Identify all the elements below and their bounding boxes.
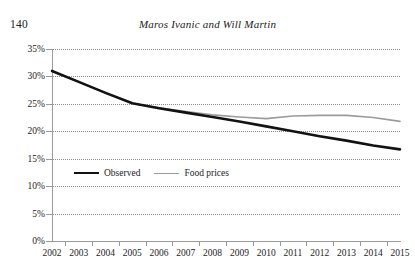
x-tick-mark <box>226 241 227 246</box>
running-head: 140 Maros Ivanic and Will Martin <box>0 18 415 36</box>
y-axis-labels: 0%5%10%15%20%25%30%35% <box>0 49 50 241</box>
x-tick-mark <box>119 241 120 246</box>
x-tick-mark <box>92 241 93 246</box>
x-tick-label: 2006 <box>150 248 169 258</box>
running-head-title: Maros Ivanic and Will Martin <box>0 18 415 30</box>
y-tick-label: 0% <box>32 236 45 246</box>
x-tick-mark <box>253 241 254 246</box>
x-tick-mark <box>65 241 66 246</box>
series-line-observed <box>52 71 400 149</box>
x-tick-label: 2013 <box>337 248 356 258</box>
x-tick-mark <box>333 241 334 246</box>
legend-label-observed: Observed <box>104 168 140 178</box>
line-chart: 0%5%10%15%20%25%30%35% 20022003200420052… <box>0 40 415 278</box>
legend-line-observed-icon <box>74 172 99 174</box>
x-tick-label: 2009 <box>230 248 249 258</box>
x-tick-label: 2011 <box>284 248 303 258</box>
x-tick-label: 2004 <box>96 248 115 258</box>
figure-page: 140 Maros Ivanic and Will Martin 0%5%10%… <box>0 0 415 278</box>
legend-line-food-prices-icon <box>154 173 179 174</box>
series-layer <box>52 49 400 241</box>
x-tick-label: 2014 <box>364 248 383 258</box>
x-tick-label: 2002 <box>43 248 62 258</box>
series-line-food-prices <box>52 71 400 121</box>
x-tick-mark <box>199 241 200 246</box>
legend-item-food-prices: Food prices <box>154 168 229 178</box>
x-tick-label: 2003 <box>69 248 88 258</box>
x-tick-label: 2007 <box>176 248 195 258</box>
x-tick-label: 2012 <box>310 248 329 258</box>
chart-legend: Observed Food prices <box>74 168 229 178</box>
y-tick-label: 20% <box>28 126 45 136</box>
x-tick-label: 2005 <box>123 248 142 258</box>
x-tick-mark <box>146 241 147 246</box>
x-axis-labels: 2002200320042005200620072008200920102011… <box>0 248 415 268</box>
x-tick-label: 2015 <box>391 248 410 258</box>
legend-item-observed: Observed <box>74 168 140 178</box>
x-tick-mark <box>360 241 361 246</box>
x-tick-mark <box>306 241 307 246</box>
y-tick-label: 35% <box>28 44 45 54</box>
x-tick-label: 2008 <box>203 248 222 258</box>
y-tick-label: 10% <box>28 181 45 191</box>
y-tick-label: 25% <box>28 99 45 109</box>
legend-label-food-prices: Food prices <box>184 168 229 178</box>
y-tick-label: 30% <box>28 71 45 81</box>
x-tick-mark <box>172 241 173 246</box>
x-tick-mark <box>387 241 388 246</box>
y-tick-label: 5% <box>32 209 45 219</box>
x-tick-mark <box>280 241 281 246</box>
y-tick-label: 15% <box>28 154 45 164</box>
x-tick-label: 2010 <box>257 248 276 258</box>
